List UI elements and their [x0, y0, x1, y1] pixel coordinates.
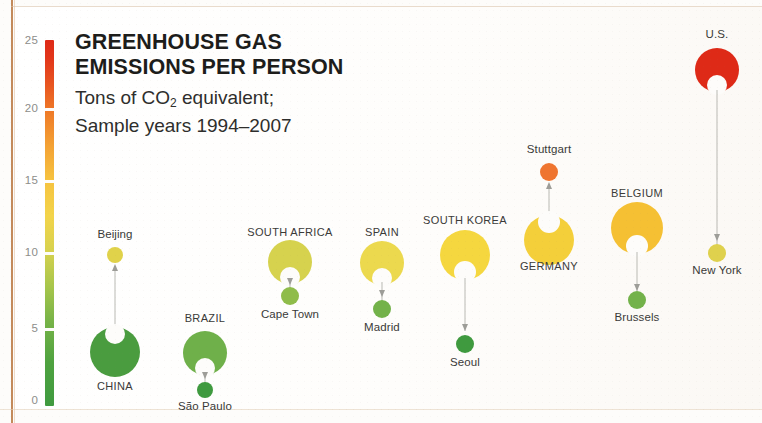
node-stuttgart: [540, 163, 558, 181]
notch-germany: [538, 211, 560, 233]
label-us: U.S.: [706, 28, 729, 40]
node-beijing: [107, 247, 123, 263]
axis-tick-5: 5: [18, 322, 38, 334]
label-seoul: Seoul: [450, 356, 480, 368]
notch-china: [105, 324, 125, 344]
label-cape-town: Cape Town: [261, 308, 319, 320]
scale-gap-5: [45, 328, 54, 331]
title-line-1: GREENHOUSE GAS: [75, 30, 282, 54]
label-germany: GERMANY: [520, 260, 578, 272]
arrowhead-down-capetown: [287, 278, 293, 285]
node-cape-town: [281, 287, 299, 305]
node-madrid: [373, 300, 391, 318]
label-beijing: Beijing: [97, 228, 132, 240]
label-brazil: BRAZIL: [185, 312, 226, 324]
page-edge-left: [11, 0, 13, 423]
label-brussels: Brussels: [615, 311, 660, 323]
connector-us-newyork: [717, 90, 718, 248]
arrowhead-down-newyork: [714, 234, 720, 241]
page-edge-top: [11, 6, 762, 7]
axis-tick-25: 25: [18, 34, 38, 46]
scale-gap-15: [45, 180, 54, 183]
label-sao-paulo: São Paulo: [178, 400, 232, 412]
label-china: CHINA: [97, 380, 133, 392]
node-seoul: [456, 335, 474, 353]
axis-tick-15: 15: [18, 174, 38, 186]
page-title: GREENHOUSE GAS EMISSIONS PER PERSON: [75, 30, 405, 80]
label-belgium: BELGIUM: [611, 187, 663, 199]
infographic-page: 25 20 15 10 5 0 GREENHOUSE GAS EMISSIONS…: [0, 0, 762, 423]
label-south-africa: SOUTH AFRICA: [247, 226, 333, 238]
page-edge-left-inner: [14, 0, 15, 423]
node-sao-paulo: [197, 382, 213, 398]
subtitle-units-pre: Tons of CO: [75, 87, 170, 108]
chart-subtitle: Tons of CO2 equivalent; Sample years 199…: [75, 85, 405, 138]
arrowhead-up-stuttgart: [546, 182, 552, 189]
label-stuttgart: Stuttgart: [527, 143, 571, 155]
arrowhead-down-brussels: [634, 284, 640, 291]
axis-tick-0: 0: [18, 394, 38, 406]
node-new-york: [708, 244, 726, 262]
arrowhead-down-seoul: [462, 324, 468, 331]
node-brussels: [628, 291, 646, 309]
color-scale-axis: [45, 40, 57, 406]
arrowhead-up-beijing: [112, 264, 118, 271]
color-gradient-bar: [45, 40, 54, 406]
scale-gap-10: [45, 252, 54, 255]
title-line-2: EMISSIONS PER PERSON: [75, 55, 343, 79]
arrowhead-down-madrid: [379, 290, 385, 297]
chart-heading: GREENHOUSE GAS EMISSIONS PER PERSON Tons…: [75, 30, 405, 138]
arrowhead-down-saopaulo: [202, 372, 208, 379]
label-new-york: New York: [692, 264, 741, 276]
page-edge-bottom: [0, 409, 762, 410]
axis-tick-20: 20: [18, 102, 38, 114]
label-madrid: Madrid: [364, 321, 400, 333]
label-spain: SPAIN: [365, 226, 399, 238]
subtitle-years: Sample years 1994–2007: [75, 115, 292, 136]
axis-tick-10: 10: [18, 246, 38, 258]
subtitle-units-post: equivalent;: [177, 87, 274, 108]
label-south-korea: SOUTH KOREA: [423, 214, 507, 226]
scale-gap-20: [45, 108, 54, 111]
co2-subscript: 2: [170, 96, 177, 110]
